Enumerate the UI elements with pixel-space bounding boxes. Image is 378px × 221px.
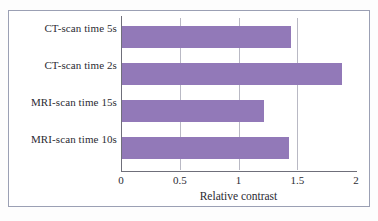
y-axis-line	[121, 16, 122, 172]
x-tick-label: 2	[353, 174, 359, 186]
x-tick-label: 1	[236, 174, 242, 186]
category-axis-labels: CT-scan time 5s CT-scan time 2s MRI-scan…	[0, 18, 117, 170]
category-label: MRI-scan time 15s	[5, 96, 117, 108]
bar	[121, 63, 342, 85]
gridline	[297, 18, 298, 170]
figure: CT-scan time 5s CT-scan time 2s MRI-scan…	[0, 0, 378, 221]
category-label: MRI-scan time 10s	[5, 133, 117, 145]
bar	[121, 26, 291, 48]
category-label: CT-scan time 2s	[5, 59, 117, 71]
category-label: CT-scan time 5s	[5, 22, 117, 34]
plot-area	[121, 18, 356, 170]
x-axis-title: Relative contrast	[121, 190, 356, 202]
x-axis-line	[121, 171, 357, 172]
x-tick-label: 0	[118, 174, 124, 186]
x-tick-label: 1.5	[290, 174, 304, 186]
x-tick-label: 0.5	[173, 174, 187, 186]
bar	[121, 137, 289, 159]
bar	[121, 100, 264, 122]
